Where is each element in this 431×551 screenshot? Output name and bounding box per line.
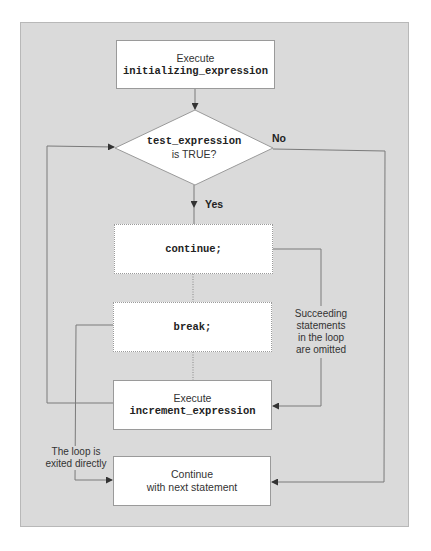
exited-line-1: The loop is xyxy=(40,446,112,458)
next-statement-box: Continue with next statement xyxy=(113,456,271,506)
no-label: No xyxy=(272,132,286,144)
next-line-2: with next statement xyxy=(147,481,237,494)
exited-note: The loop is exited directly xyxy=(40,446,112,470)
init-expression: initializing_expression xyxy=(123,65,268,78)
increment-label: Execute xyxy=(174,392,212,405)
omitted-line-3: in the loop xyxy=(287,332,355,344)
exited-line-2: exited directly xyxy=(40,458,112,470)
increment-expression: increment_expression xyxy=(129,405,255,418)
break-statement: break; xyxy=(174,321,212,334)
omitted-line-2: statements xyxy=(287,320,355,332)
test-suffix: is TRUE? xyxy=(172,148,217,161)
test-expression: test_expression xyxy=(147,135,242,148)
omitted-line-1: Succeeding xyxy=(287,308,355,320)
init-box: Execute initializing_expression xyxy=(116,40,275,89)
init-label: Execute xyxy=(177,52,215,65)
continue-box: continue; xyxy=(114,224,273,274)
next-line-1: Continue xyxy=(171,468,213,481)
yes-label: Yes xyxy=(205,198,223,210)
increment-box: Execute increment_expression xyxy=(113,380,272,430)
test-condition: test_expression is TRUE? xyxy=(115,110,273,185)
omitted-line-4: are omitted xyxy=(287,344,355,356)
omitted-note: Succeeding statements in the loop are om… xyxy=(287,306,355,358)
break-box: break; xyxy=(113,302,272,352)
continue-statement: continue; xyxy=(165,243,222,256)
